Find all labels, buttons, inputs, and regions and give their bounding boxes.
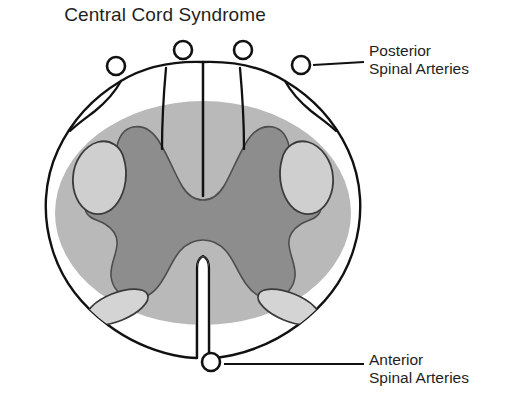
anterior-median-fissure — [197, 256, 209, 360]
posterior-spinal-artery-marker — [174, 41, 192, 59]
callout-posterior-line2: Spinal Arteries — [369, 60, 469, 78]
anterior-spinal-artery-marker — [202, 353, 220, 371]
callout-posterior-spinal-arteries: Posterior Spinal Arteries — [369, 42, 469, 78]
page-title: Central Cord Syndrome — [0, 4, 330, 26]
leader-line-posterior — [313, 62, 364, 65]
callout-anterior-line2: Spinal Arteries — [369, 369, 469, 387]
posterior-spinal-artery-marker — [107, 57, 125, 75]
figure-root: Central Cord Syndrome — [0, 0, 513, 410]
posterior-spinal-artery-marker — [292, 56, 310, 74]
callout-posterior-line1: Posterior — [369, 42, 469, 60]
callout-anterior-spinal-arteries: Anterior Spinal Arteries — [369, 351, 469, 387]
callout-anterior-line1: Anterior — [369, 351, 469, 369]
posterior-spinal-artery-marker — [234, 41, 252, 59]
anterior-spinal-artery-markers — [202, 353, 220, 371]
